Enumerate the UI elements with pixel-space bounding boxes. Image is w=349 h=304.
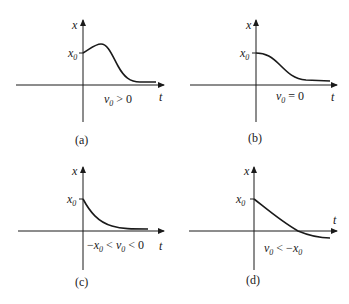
response-curve	[83, 199, 148, 229]
response-curve	[256, 53, 330, 81]
panel-caption: (d)	[246, 273, 260, 287]
response-curve	[254, 199, 330, 238]
y-axis-label: x	[71, 18, 78, 32]
x0-label: x0	[66, 192, 76, 208]
panel-caption: (c)	[75, 275, 88, 289]
x-axis-label: t	[331, 90, 335, 104]
x0-label: x0	[239, 46, 249, 62]
panel-d: x t x0 v0 < −x0 (d)	[189, 164, 337, 287]
x0-label: x0	[67, 46, 77, 62]
condition-label: −x0 < v0 < 0	[87, 238, 144, 254]
panel-caption: (a)	[75, 133, 88, 147]
panel-a: x t x0 v0 > 0 (a)	[16, 18, 164, 147]
x-axis-label: t	[333, 213, 337, 227]
panel-b: x t x0 v0 = 0 (b)	[190, 18, 337, 145]
x-axis-label: t	[159, 90, 163, 104]
x-axis-label: t	[159, 239, 163, 253]
y-axis-label: x	[71, 164, 78, 178]
y-axis-label: x	[245, 18, 252, 32]
figure-overdamped-responses: x t x0 v0 > 0 (a) x t x0 v0 = 0 (b) x t …	[0, 0, 349, 304]
condition-label: v0 < −x0	[264, 241, 302, 257]
x0-label: x0	[235, 192, 245, 208]
panel-caption: (b)	[248, 131, 262, 145]
condition-label: v0 > 0	[104, 92, 132, 108]
condition-label: v0 = 0	[276, 89, 304, 105]
y-axis-label: x	[243, 164, 250, 178]
panel-c: x t x0 −x0 < v0 < 0 (c)	[18, 164, 164, 289]
response-curve	[83, 44, 156, 82]
